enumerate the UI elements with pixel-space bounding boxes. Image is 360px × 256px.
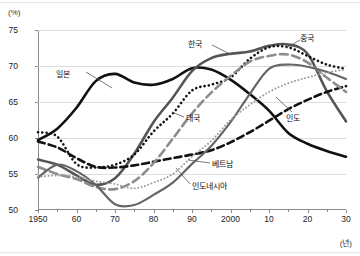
series-label-india: 인도 (286, 112, 300, 123)
x-axis-minor-tick (211, 210, 212, 212)
x-axis-tick-label: 1950 (29, 214, 48, 224)
y-axis-unit-label: (%) (8, 8, 20, 17)
y-axis-tick-label: 60 (0, 133, 18, 143)
x-axis-tick-label: 80 (149, 214, 158, 224)
x-axis-tick-label: 2000 (221, 214, 240, 224)
x-axis-tick-label: 30 (341, 214, 350, 224)
x-axis-tick (115, 210, 116, 213)
chart-figure: (%) (년) 505560657075 1950607080902000102… (0, 0, 360, 256)
x-axis-tick-label: 20 (303, 214, 312, 224)
x-axis-minor-tick (288, 210, 289, 212)
y-axis-tick-label: 70 (0, 61, 18, 71)
y-axis-tick-label: 65 (0, 97, 18, 107)
scan-band-top (0, 2, 360, 3)
x-axis-minor-tick (173, 210, 174, 212)
x-axis-minor-tick (327, 210, 328, 212)
series-label-indonesia: 인도네시아 (192, 180, 227, 191)
x-axis-tick (269, 210, 270, 213)
x-axis-minor-tick (134, 210, 135, 212)
x-axis-unit-label: (년) (340, 237, 352, 248)
x-axis-tick (231, 210, 232, 213)
x-axis-tick-label: 90 (187, 214, 196, 224)
x-axis-tick-label: 10 (264, 214, 273, 224)
x-axis-tick (77, 210, 78, 213)
x-axis-minor-tick (96, 210, 97, 212)
x-axis-minor-tick (250, 210, 251, 212)
series-line-인도네시아 (38, 70, 346, 189)
x-axis-tick (154, 210, 155, 213)
x-axis-minor-tick (57, 210, 58, 212)
scan-band-bottom (0, 252, 360, 253)
x-axis-tick (38, 210, 39, 213)
x-axis-tick (192, 210, 193, 213)
series-label-thailand: 태국 (186, 112, 200, 123)
x-axis-tick-label: 60 (72, 214, 81, 224)
x-axis-tick (346, 210, 347, 213)
x-axis-tick (308, 210, 309, 213)
series-line-중국 (38, 46, 346, 168)
series-label-korea: 한국 (188, 38, 202, 49)
y-axis-tick-label: 50 (0, 205, 18, 215)
series-label-china: 중국 (300, 32, 314, 43)
series-label-japan: 일본 (56, 68, 70, 79)
y-axis-tick-label: 75 (0, 25, 18, 35)
y-axis-tick-label: 55 (0, 169, 18, 179)
series-label-vietnam: 베트남 (212, 158, 233, 169)
x-axis-tick-label: 70 (110, 214, 119, 224)
